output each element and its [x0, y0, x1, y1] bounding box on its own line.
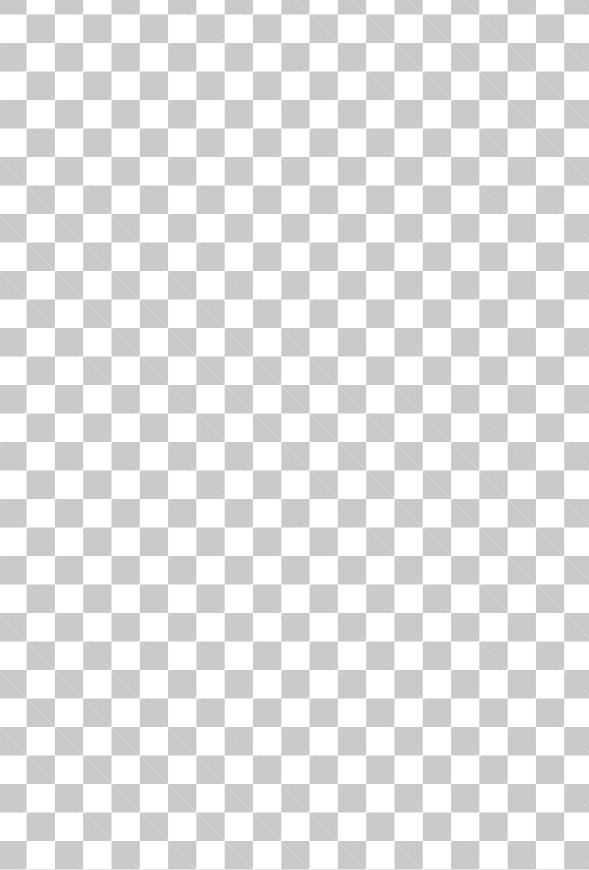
transparency-checkerboard-background — [0, 0, 589, 870]
